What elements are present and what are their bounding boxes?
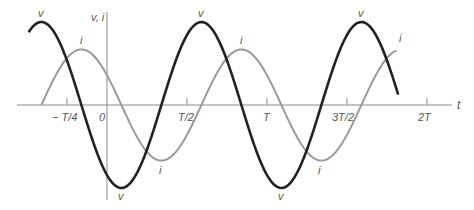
v-label: v xyxy=(358,7,365,19)
i-label: i xyxy=(318,164,321,176)
v-label: v xyxy=(278,190,285,202)
x-axis-label: t xyxy=(457,98,461,112)
tick-label-three-halves-T: 3T/2 xyxy=(332,111,354,123)
tick-label-T: T xyxy=(263,111,271,123)
i-label: i xyxy=(240,34,243,46)
tick-label-half-T: T/2 xyxy=(178,111,194,123)
i-label: i xyxy=(159,164,162,176)
chart-canvas: − T/4 0 T/2 T 3T/2 2T t v, i v v v v v i… xyxy=(0,0,474,210)
i-label: i xyxy=(399,32,402,44)
y-axis-label: v, i xyxy=(91,11,105,23)
tick-label-2T: 2T xyxy=(417,111,432,123)
v-label: v xyxy=(118,190,125,202)
v-label: v xyxy=(38,7,45,19)
i-label: i xyxy=(80,34,83,46)
tick-label-minus-quarter-T: − T/4 xyxy=(52,111,77,123)
v-label: v xyxy=(198,7,205,19)
tick-label-zero: 0 xyxy=(99,111,106,123)
